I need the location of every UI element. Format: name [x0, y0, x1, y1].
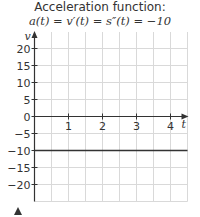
svg-text:v: v	[25, 30, 32, 43]
svg-text:−20: −20	[7, 179, 30, 192]
svg-text:3: 3	[133, 120, 140, 133]
svg-text:5: 5	[24, 94, 31, 107]
acceleration-chart: vt123420151050−5−10−15−20	[0, 0, 200, 217]
svg-text:t: t	[182, 118, 187, 131]
svg-text:2: 2	[99, 120, 106, 133]
svg-text:−5: −5	[14, 128, 30, 141]
svg-text:10: 10	[17, 77, 31, 90]
axes	[32, 31, 189, 202]
svg-text:15: 15	[17, 60, 31, 73]
svg-text:4: 4	[167, 120, 174, 133]
y-axis-arrow-icon	[32, 31, 38, 38]
svg-text:−10: −10	[7, 145, 30, 158]
triangle-marker-icon	[14, 207, 22, 215]
svg-text:−15: −15	[7, 162, 30, 175]
svg-text:0: 0	[24, 111, 31, 124]
svg-text:20: 20	[17, 43, 31, 56]
svg-text:1: 1	[65, 120, 72, 133]
